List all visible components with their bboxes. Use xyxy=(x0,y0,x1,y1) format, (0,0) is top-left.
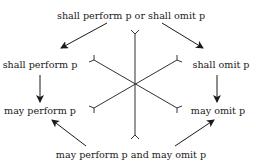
fork-bottom xyxy=(131,135,139,139)
implication-arrows xyxy=(40,23,217,146)
fork-upper-right xyxy=(177,55,182,62)
node-top-label: shall perform p or shall omit p xyxy=(57,10,205,21)
fork-top xyxy=(131,30,139,34)
node-upper-right-label: shall omit p xyxy=(193,59,250,70)
arrow-bottom-to-lower-left xyxy=(52,120,86,146)
node-lower-left-label: may perform p xyxy=(4,105,76,116)
fork-lower-left xyxy=(89,106,94,113)
fork-upper-left xyxy=(89,55,94,62)
arrow-bottom-to-lower-right xyxy=(175,120,214,146)
contradiction-star xyxy=(89,30,182,139)
node-upper-left-label: shall perform p xyxy=(3,59,78,70)
node-bottom-label: may perform p and may omit p xyxy=(56,149,206,160)
fork-lower-right xyxy=(177,106,182,113)
node-lower-right-label: may omit p xyxy=(191,105,245,116)
deontic-hexagon-diagram: shall perform p or shall omit p shall pe… xyxy=(0,0,256,164)
diagram-svg: shall perform p or shall omit p shall pe… xyxy=(0,0,256,164)
arrow-top-to-upper-left xyxy=(61,23,107,48)
arrow-top-to-upper-right xyxy=(162,23,203,48)
